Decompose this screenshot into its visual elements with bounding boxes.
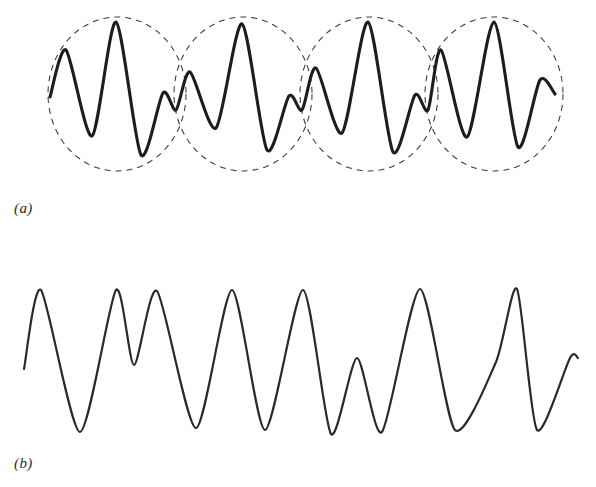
panel-a-plot <box>0 0 596 240</box>
panel-a-caption: (a) <box>14 200 33 217</box>
panel-b-plot <box>0 262 596 487</box>
panel-b-unmodulated-wave <box>0 262 596 487</box>
beat-envelope-ellipse-4 <box>425 17 563 171</box>
unmodulated-waveform-path <box>24 288 578 434</box>
modulated-waveform-path <box>50 22 555 156</box>
panel-a-modulated-wave <box>0 0 596 240</box>
beats-figure: (a) (b) <box>0 0 596 487</box>
panel-b-caption: (b) <box>14 455 33 472</box>
